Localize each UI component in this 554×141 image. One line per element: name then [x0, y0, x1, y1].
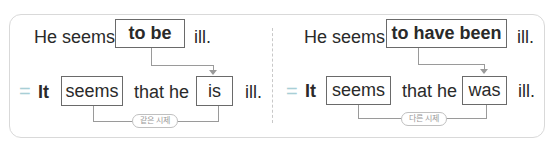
left-connector-line	[151, 48, 214, 66]
right-connector-line	[418, 48, 485, 65]
right-row2-boxed-tense: was	[462, 76, 507, 105]
left-equals-sign: =	[19, 80, 31, 102]
left-row2-boxed-tense: is	[196, 76, 233, 106]
right-row1-prefix: He seems	[304, 26, 385, 48]
right-arrow-down-icon	[480, 69, 488, 74]
right-row1-boxed-infinitive: to have been	[386, 19, 507, 48]
right-tense-label: 다른 시제	[401, 112, 447, 126]
left-row1-boxed-infinitive: to be	[115, 19, 185, 48]
left-row2-middle: that he	[134, 81, 189, 103]
left-arrow-down-icon	[209, 70, 217, 75]
left-row1-prefix: He seems	[34, 26, 115, 48]
left-row1-suffix: ill.	[194, 26, 211, 48]
right-row2-middle: that he	[402, 80, 457, 102]
right-equals-sign: =	[286, 80, 298, 102]
dashed-divider	[272, 28, 273, 123]
right-row1-suffix: ill.	[517, 26, 534, 48]
right-row2-boxed-seems: seems	[326, 76, 391, 105]
left-row2-boxed-seems: seems	[61, 76, 123, 106]
left-row2-it: It	[38, 81, 49, 103]
right-row2-it: It	[305, 80, 316, 102]
left-tense-label: 같은 시제	[132, 114, 178, 128]
right-row2-suffix: ill.	[518, 80, 535, 102]
left-row2-suffix: ill.	[245, 81, 262, 103]
